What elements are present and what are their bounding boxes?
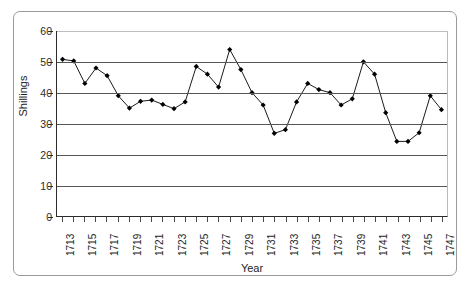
- x-tick-mark-1728: [230, 217, 231, 222]
- chart-figure: Shillings 0102030405060 1713171517171719…: [0, 0, 472, 295]
- x-tick-mark-1718: [118, 217, 119, 222]
- data-point-1742: [383, 110, 388, 115]
- x-tick-mark-1731: [263, 217, 264, 222]
- x-tick-mark-1729: [241, 217, 242, 222]
- x-tick-mark-1726: [207, 217, 208, 222]
- x-tick-mark-1742: [386, 217, 387, 222]
- x-axis-tick-labels: 1713171517171719172117231725172717291731…: [56, 224, 448, 258]
- x-tick-label-1745: 1745: [424, 234, 434, 256]
- x-tick-label-1739: 1739: [357, 234, 367, 256]
- data-point-1734: [294, 99, 299, 104]
- x-tick-label-1733: 1733: [290, 234, 300, 256]
- x-tick-mark-1717: [106, 217, 107, 222]
- gridline-y-10: [57, 186, 447, 187]
- data-point-1729: [238, 67, 243, 72]
- x-tick-mark-1740: [364, 217, 365, 222]
- gridline-y-20: [57, 155, 447, 156]
- plot-area: [56, 31, 448, 217]
- data-point-1724: [183, 99, 188, 104]
- x-axis-title: Year: [56, 262, 448, 274]
- x-tick-label-1715: 1715: [88, 234, 98, 256]
- data-point-1725: [194, 64, 199, 69]
- x-tick-mark-1746: [431, 217, 432, 222]
- y-tick-mark-0: [48, 217, 53, 218]
- x-tick-mark-1735: [308, 217, 309, 222]
- x-tick-mark-1721: [151, 217, 152, 222]
- data-point-1717: [105, 73, 110, 78]
- x-tick-mark-1719: [129, 217, 130, 222]
- x-tick-label-1731: 1731: [267, 234, 277, 256]
- x-tick-label-1717: 1717: [110, 234, 120, 256]
- x-tick-label-1719: 1719: [133, 234, 143, 256]
- x-tick-mark-1713: [62, 217, 63, 222]
- y-axis-tick-marks: [0, 31, 56, 217]
- x-tick-label-1747: 1747: [446, 234, 456, 256]
- gridline-y-50: [57, 62, 447, 63]
- x-tick-mark-1741: [375, 217, 376, 222]
- data-point-1721: [149, 97, 154, 102]
- x-tick-mark-1738: [342, 217, 343, 222]
- data-point-1733: [283, 127, 288, 132]
- x-tick-mark-1745: [420, 217, 421, 222]
- data-point-1728: [227, 47, 232, 52]
- x-tick-mark-1744: [409, 217, 410, 222]
- gridline-y-60: [57, 31, 447, 32]
- x-tick-mark-1715: [84, 217, 85, 222]
- data-point-1735: [305, 81, 310, 86]
- x-tick-label-1737: 1737: [334, 234, 344, 256]
- data-point-1722: [160, 102, 165, 107]
- x-tick-label-1743: 1743: [402, 234, 412, 256]
- x-tick-mark-1727: [218, 217, 219, 222]
- x-tick-mark-1733: [286, 217, 287, 222]
- gridline-y-30: [57, 124, 447, 125]
- x-tick-label-1727: 1727: [222, 234, 232, 256]
- x-tick-mark-1737: [330, 217, 331, 222]
- x-tick-mark-1739: [353, 217, 354, 222]
- x-tick-mark-1730: [252, 217, 253, 222]
- gridline-y-40: [57, 93, 447, 94]
- y-tick-mark-30: [48, 124, 53, 125]
- y-tick-mark-40: [48, 93, 53, 94]
- data-point-1723: [171, 106, 176, 111]
- x-tick-label-1741: 1741: [379, 234, 389, 256]
- x-tick-label-1725: 1725: [200, 234, 210, 256]
- x-tick-mark-1714: [73, 217, 74, 222]
- x-tick-label-1721: 1721: [155, 234, 165, 256]
- y-tick-mark-10: [48, 186, 53, 187]
- data-point-1739: [350, 96, 355, 101]
- x-tick-mark-1743: [398, 217, 399, 222]
- data-point-1720: [138, 99, 143, 104]
- x-tick-mark-1722: [162, 217, 163, 222]
- x-tick-mark-1723: [174, 217, 175, 222]
- x-tick-mark-1724: [185, 217, 186, 222]
- x-tick-mark-1720: [140, 217, 141, 222]
- x-tick-mark-1734: [297, 217, 298, 222]
- x-tick-mark-1716: [95, 217, 96, 222]
- y-tick-mark-60: [48, 31, 53, 32]
- x-tick-mark-1732: [274, 217, 275, 222]
- x-tick-mark-1747: [442, 217, 443, 222]
- y-tick-mark-20: [48, 155, 53, 156]
- data-point-1736: [316, 87, 321, 92]
- y-tick-mark-50: [48, 62, 53, 63]
- x-tick-label-1723: 1723: [178, 234, 188, 256]
- data-point-1732: [272, 131, 277, 136]
- x-tick-mark-1725: [196, 217, 197, 222]
- x-tick-mark-1736: [319, 217, 320, 222]
- x-tick-label-1735: 1735: [312, 234, 322, 256]
- x-tick-label-1713: 1713: [66, 234, 76, 256]
- x-tick-label-1729: 1729: [245, 234, 255, 256]
- data-point-1743: [394, 139, 399, 144]
